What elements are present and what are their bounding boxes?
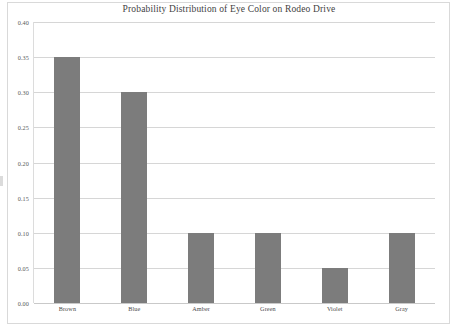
y-axis-tick-label: 0.25 — [18, 124, 29, 131]
gridline-0.00: 0.00 — [34, 303, 435, 304]
bar-gray — [389, 233, 415, 303]
y-axis-tick-label: 0.05 — [18, 264, 29, 271]
bar-series: BrownBlueAmberGreenVioletGray — [34, 22, 435, 303]
bar-group: Amber — [168, 22, 235, 303]
chart-container: Probability Distribution of Eye Color on… — [0, 0, 458, 327]
bar-group: Brown — [34, 22, 101, 303]
y-axis-tick-label: 0.35 — [18, 54, 29, 61]
x-axis-category-label: Amber — [192, 305, 210, 312]
bar-group: Gray — [368, 22, 435, 303]
bar-amber — [188, 233, 214, 303]
chart-title: Probability Distribution of Eye Color on… — [0, 4, 458, 14]
x-axis-category-label: Green — [260, 305, 276, 312]
x-axis-category-label: Gray — [395, 305, 408, 312]
x-axis-category-label: Violet — [327, 305, 343, 312]
y-axis-tick-label: 0.40 — [18, 19, 29, 26]
x-axis-category-label: Brown — [59, 305, 76, 312]
bar-group: Blue — [101, 22, 168, 303]
bar-blue — [121, 92, 147, 303]
y-axis-tick-label: 0.00 — [18, 300, 29, 307]
y-axis-tick-label: 0.15 — [18, 194, 29, 201]
bar-brown — [54, 57, 80, 303]
bar-group: Violet — [301, 22, 368, 303]
bar-green — [255, 233, 281, 303]
cropped-edge-artifact — [0, 176, 3, 186]
y-axis-tick-label: 0.10 — [18, 229, 29, 236]
plot-area: 0.000.050.100.150.200.250.300.350.40 Bro… — [34, 22, 435, 303]
y-axis-tick-label: 0.20 — [18, 159, 29, 166]
y-axis-tick-label: 0.30 — [18, 89, 29, 96]
bar-group: Green — [235, 22, 302, 303]
bar-violet — [322, 268, 348, 303]
x-axis-category-label: Blue — [128, 305, 140, 312]
